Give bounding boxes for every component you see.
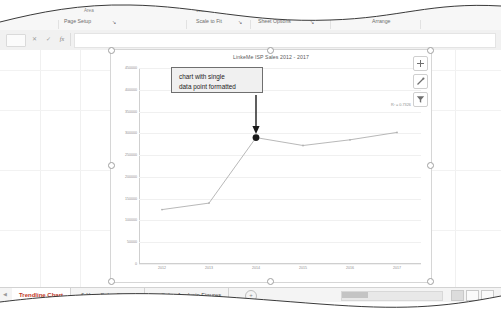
plus-icon bbox=[416, 59, 425, 68]
x-axis-label: 2016 bbox=[346, 266, 354, 270]
callout-line-1: chart with single bbox=[179, 72, 262, 82]
data-point-2013 bbox=[208, 202, 210, 204]
y-axis-label: 150000 bbox=[125, 197, 137, 201]
ribbon-group-sheet-options: Sheet Options bbox=[258, 18, 291, 24]
add-sheet-button[interactable]: + bbox=[245, 290, 257, 302]
y-axis-label: 300000 bbox=[125, 131, 137, 135]
cancel-formula-icon[interactable]: ✕ bbox=[28, 34, 40, 45]
ribbon-separator bbox=[250, 20, 251, 29]
view-buttons bbox=[451, 290, 495, 300]
data-point-2016 bbox=[349, 139, 351, 141]
ribbon-label-print-1[interactable]: Print bbox=[282, 8, 291, 13]
chart-resize-handle-br[interactable] bbox=[427, 278, 434, 285]
grid-column-line bbox=[455, 50, 456, 287]
y-axis-label: 100000 bbox=[125, 218, 137, 222]
x-axis-label: 2013 bbox=[205, 266, 213, 270]
ribbon-label-pane[interactable]: Pane bbox=[398, 8, 409, 13]
y-axis-label: 250000 bbox=[125, 153, 137, 157]
ribbon: Area Width Print Print Gridlines Heading… bbox=[0, 0, 501, 30]
ribbon-label-gridlines[interactable]: Gridlines bbox=[338, 8, 356, 13]
confirm-formula-icon[interactable]: ✓ bbox=[42, 34, 54, 45]
ribbon-label-width[interactable]: Width bbox=[196, 8, 208, 13]
ribbon-label-headings[interactable]: Headings bbox=[366, 8, 385, 13]
sheet-tab-sales-analysis-figures[interactable]: Sales Analysis Figures bbox=[154, 288, 229, 302]
excel-window: Area Width Print Print Gridlines Heading… bbox=[0, 0, 501, 314]
chart-resize-handle-tr[interactable] bbox=[427, 47, 434, 54]
y-axis-label: 400000 bbox=[125, 88, 137, 92]
view-page-layout-icon[interactable] bbox=[466, 290, 479, 301]
ribbon-separator bbox=[58, 20, 59, 29]
ribbon-separator bbox=[420, 20, 421, 29]
callout-line-2: data point formatted bbox=[179, 82, 262, 92]
chart-styles-button[interactable] bbox=[413, 74, 428, 89]
sheet-tab-bar: ◀ Trendline Chart 6-Year Sales Figures S… bbox=[0, 287, 501, 302]
insert-function-icon[interactable]: fx bbox=[56, 34, 68, 45]
ribbon-label-print-2[interactable]: Print bbox=[312, 8, 321, 13]
chart-elements-button[interactable] bbox=[413, 56, 428, 71]
chart-resize-handle-ml[interactable] bbox=[108, 162, 115, 169]
formula-input[interactable] bbox=[74, 33, 496, 48]
y-axis-label: 200000 bbox=[125, 175, 137, 179]
trendline-r2-label: R² = 0.7326 bbox=[391, 103, 411, 107]
formula-bar: ✕ ✓ fx bbox=[0, 30, 501, 51]
ribbon-separator bbox=[330, 20, 331, 29]
grid-column-line bbox=[40, 50, 41, 287]
sheet-tab-6-year-sales-figures[interactable]: 6-Year Sales Figures bbox=[74, 288, 145, 302]
y-axis-label: 50000 bbox=[127, 240, 137, 244]
sheet-tab-trendline-chart[interactable]: Trendline Chart bbox=[12, 288, 71, 302]
ribbon-upper-labels: Area Width Print Print Gridlines Heading… bbox=[0, 8, 501, 18]
chart-resize-handle-mr[interactable] bbox=[427, 162, 434, 169]
page-setup-dialog-launcher-icon[interactable]: ↘ bbox=[112, 19, 116, 25]
chart-resize-handle-tl[interactable] bbox=[108, 47, 115, 54]
data-point-2014-formatted bbox=[253, 134, 260, 141]
filter-icon bbox=[416, 95, 425, 104]
y-axis-label: 450000 bbox=[125, 66, 137, 70]
chart-resize-handle-tc[interactable] bbox=[267, 47, 274, 54]
chart-plot-area[interactable]: 0 50000 100000 150000 200000 250000 3000… bbox=[139, 68, 421, 264]
ribbon-group-page-setup: Page Setup bbox=[64, 18, 91, 24]
sheet-options-dialog-launcher-icon[interactable]: ↘ bbox=[310, 19, 314, 25]
x-axis-label: 2015 bbox=[299, 266, 307, 270]
data-point-2012 bbox=[161, 209, 163, 211]
y-axis-label: 350000 bbox=[125, 110, 137, 114]
x-axis-label: 2012 bbox=[158, 266, 166, 270]
annotation-callout[interactable]: chart with single data point formatted bbox=[171, 67, 263, 93]
scrollbar-thumb[interactable] bbox=[342, 292, 368, 298]
data-series-line[interactable] bbox=[139, 68, 421, 264]
chart-title[interactable]: LinkeMe ISP Sales 2012 - 2017 bbox=[111, 54, 431, 60]
view-page-break-icon[interactable] bbox=[481, 290, 494, 301]
grid-column-line bbox=[80, 50, 81, 287]
y-axis-label: 0 bbox=[135, 262, 137, 266]
chart-side-buttons bbox=[413, 56, 427, 110]
name-box[interactable] bbox=[6, 34, 26, 47]
brush-icon bbox=[416, 77, 425, 86]
view-normal-icon[interactable] bbox=[451, 290, 464, 301]
chart-resize-handle-bl[interactable] bbox=[108, 278, 115, 285]
ribbon-group-arrange: Arrange bbox=[372, 18, 390, 24]
ribbon-separator bbox=[186, 20, 187, 29]
sheet-nav-prev-icon[interactable]: ◀ bbox=[3, 291, 7, 297]
ribbon-label-area[interactable]: Area bbox=[84, 8, 94, 13]
x-axis-label: 2017 bbox=[393, 266, 401, 270]
data-point-2015 bbox=[302, 145, 304, 147]
data-point-2017 bbox=[396, 132, 398, 134]
chart-filters-button[interactable] bbox=[413, 92, 428, 107]
ribbon-group-scale-to-fit: Scale to Fit bbox=[196, 18, 222, 24]
horizontal-scrollbar[interactable] bbox=[341, 291, 443, 301]
y-gridline: 0 bbox=[139, 264, 421, 265]
scale-to-fit-dialog-launcher-icon[interactable]: ↘ bbox=[238, 19, 242, 25]
formula-bar-divider bbox=[70, 33, 71, 46]
x-axis-label: 2014 bbox=[252, 266, 260, 270]
chart-resize-handle-bc[interactable] bbox=[267, 278, 274, 285]
chart-object[interactable]: LinkeMe ISP Sales 2012 - 2017 bbox=[110, 49, 432, 283]
